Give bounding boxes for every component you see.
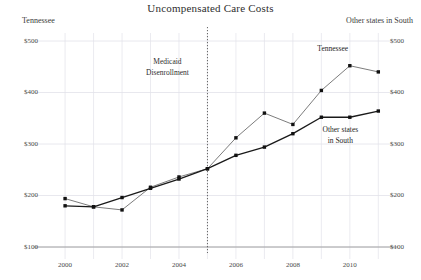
left-ytick-label: $300 — [4, 140, 38, 148]
medicaid-disenrollment-annotation: Medicaid Disenrollment — [133, 57, 201, 79]
right-ytick-label: $200 — [390, 191, 421, 199]
tennessee-series-label-text: Tennessee — [317, 44, 348, 55]
other-states-series-label-line1: Other states — [311, 125, 369, 136]
right-ytick-label: $300 — [390, 140, 421, 148]
xtick-label: 2000 — [45, 261, 85, 269]
xtick-label: 2010 — [330, 261, 370, 269]
right-ytick-label: $500 — [390, 37, 421, 45]
right-ytick-label: $400 — [390, 88, 421, 96]
xtick-label: 2004 — [159, 261, 199, 269]
tennessee-series-label: Tennessee — [317, 44, 348, 55]
xtick-label: 2008 — [273, 261, 313, 269]
other-states-series-label: Other states in South — [311, 125, 369, 147]
medicaid-annotation-line1: Medicaid — [133, 57, 201, 68]
left-ytick-label: $400 — [4, 88, 38, 96]
medicaid-annotation-line2: Disenrollment — [133, 68, 201, 79]
right-ytick-label: $100 — [390, 243, 421, 251]
left-ytick-label: $500 — [4, 37, 38, 45]
xtick-label: 2006 — [216, 261, 256, 269]
left-ytick-label: $200 — [4, 191, 38, 199]
uncompensated-care-costs-chart: Uncompensated Care Costs Tennessee Other… — [0, 0, 421, 280]
xtick-label: 2002 — [102, 261, 142, 269]
other-states-series-label-line2: in South — [311, 136, 369, 147]
left-ytick-label: $100 — [4, 243, 38, 251]
